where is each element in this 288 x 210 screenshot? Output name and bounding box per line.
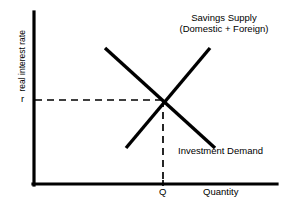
x-axis-tick-label-q: Q — [159, 187, 166, 198]
x-axis-title: Quantity — [203, 187, 238, 198]
investment-demand-label: Investment Demand — [178, 146, 263, 157]
economics-diagram: Savings Supply (Domestic + Foreign) Inve… — [0, 0, 288, 210]
savings-supply-label-line2: (Domestic + Foreign) — [163, 24, 285, 35]
y-axis-tick-label-r: r — [21, 94, 24, 105]
savings-supply-label-line1: Savings Supply — [191, 12, 256, 23]
savings-supply-label: Savings Supply (Domestic + Foreign) — [163, 13, 285, 34]
